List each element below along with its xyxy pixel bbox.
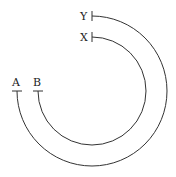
label-a: A [11,76,21,89]
inner-arc [38,37,146,145]
label-b: B [33,76,41,89]
label-y: Y [79,10,88,23]
diagram: Y X A B [0,0,176,177]
arc-diagram: Y X A B [0,0,176,177]
label-x: X [80,31,88,44]
